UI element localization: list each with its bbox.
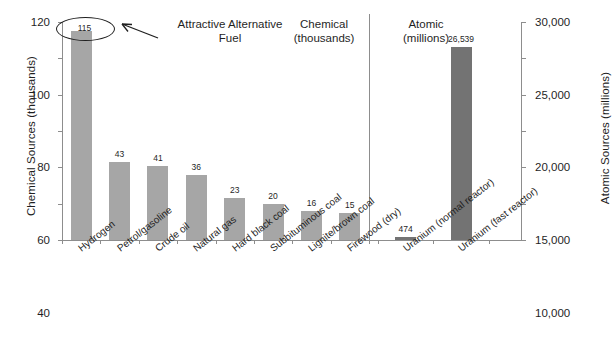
y-tick-label-right: 10,000 [535,307,570,319]
bar-hydrogen [71,31,92,240]
y-tick-right: 15,000 [522,131,526,132]
y-tick-left: 100 [58,58,62,59]
callout-text-line2: Fuel [155,31,305,45]
x-tick [331,240,332,244]
bar-value-label: 26,539 [448,34,474,44]
x-tick [177,240,178,244]
bar-chart: Chemical Sources (thousands) Atomic Sour… [0,0,614,359]
bar-value-label: 41 [153,153,162,163]
y-tick-left: 60 [58,131,62,132]
y-tick-right: 0 [522,240,526,241]
y-tick-right: 20,000 [522,95,526,96]
y-tick-label-right: 15,000 [535,234,570,246]
x-tick [369,240,370,244]
bar-value-label: 43 [115,149,124,159]
y-tick-label-left: 40 [37,307,50,319]
y-tick-label-left: 60 [37,234,50,246]
x-tick [254,240,255,244]
y-tick-left: 80 [58,95,62,96]
x-tick [433,240,434,244]
y-tick-left: 40 [58,167,62,168]
callout-value: 115 [56,17,113,39]
callout-arrow-icon [108,18,160,44]
y-tick-label-left: 120 [31,16,50,28]
x-tick [62,240,63,244]
bar-value-label: 23 [230,185,239,195]
x-tick [139,240,140,244]
x-tick [378,240,379,244]
y-axis-left-title: Chemical Sources (thousands) [25,36,37,236]
x-tick [216,240,217,244]
y-tick-right: 25,000 [522,58,526,59]
y-tick-left: 20 [58,204,62,205]
callout-text-line1: Attractive Alternative [155,17,305,31]
y-tick-label-left: 100 [31,89,50,101]
bar-value-label: 20 [268,191,277,201]
y-tick-label-right: 20,000 [535,161,570,173]
x-tick [100,240,101,244]
y-tick-right: 30,000 [522,22,526,23]
y-tick-label-right: 25,000 [535,89,570,101]
y-tick-label-left: 80 [37,161,50,173]
y-tick-right: 10,000 [522,167,526,168]
y-axis-left-spine [62,22,63,240]
x-tick [489,240,490,244]
callout-text: Attractive Alternative Fuel [155,17,305,46]
bar-value-label: 36 [192,162,201,172]
y-axis-right-title: Atomic Sources (millions) [599,38,611,238]
y-tick-label-right: 30,000 [535,16,570,28]
bar-value-label: 16 [307,198,316,208]
x-tick [292,240,293,244]
bar-value-label: 474 [399,224,413,234]
